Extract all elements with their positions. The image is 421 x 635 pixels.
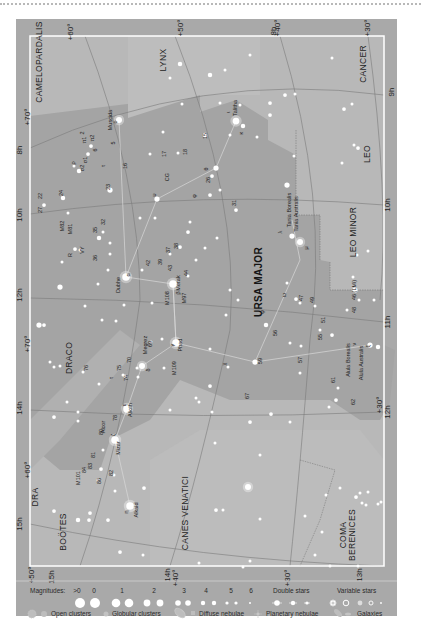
star xyxy=(198,401,201,404)
star xyxy=(109,242,112,245)
star-label: 62 xyxy=(350,399,356,405)
star xyxy=(325,494,328,497)
star-label: 83 xyxy=(87,463,93,469)
star-label: 49 xyxy=(309,297,315,303)
star-label: Alioth xyxy=(127,403,133,417)
star xyxy=(97,236,102,241)
star xyxy=(225,314,228,317)
star xyxy=(42,323,46,327)
constellation-label: LEO xyxy=(362,145,372,163)
star-label: κ xyxy=(238,131,244,134)
star xyxy=(245,484,251,490)
star xyxy=(97,283,100,286)
star xyxy=(334,398,338,402)
magnitude-dot xyxy=(175,600,181,606)
star-label: 46 (LMi) xyxy=(351,280,357,300)
star-label: σ1 xyxy=(82,157,88,163)
star xyxy=(314,554,317,557)
star-label: ν xyxy=(351,342,357,345)
coordinate-label: 12h xyxy=(16,288,24,301)
star xyxy=(341,162,344,165)
star-label: Alula Australis xyxy=(358,345,364,380)
star xyxy=(283,93,287,97)
star xyxy=(204,247,207,250)
star-label: Tania Borealis xyxy=(286,192,292,227)
star xyxy=(319,329,322,332)
star xyxy=(142,554,145,557)
star xyxy=(42,203,46,207)
magnitude-dot xyxy=(125,599,134,608)
star xyxy=(161,338,164,341)
star-label: 16 xyxy=(122,163,128,169)
star xyxy=(314,305,317,308)
star xyxy=(198,562,201,565)
star-label: 6 xyxy=(92,148,98,151)
star xyxy=(357,565,360,568)
star-label: 78 xyxy=(112,415,118,421)
star-label: 31 xyxy=(231,200,237,206)
star xyxy=(195,259,198,262)
coordinate-label: 13h xyxy=(355,568,364,581)
coordinate-label: 15h xyxy=(47,570,56,583)
star-label: 42 xyxy=(145,260,151,266)
legend-planetary-nebulae-label: Planetary nebulae xyxy=(266,610,319,618)
star xyxy=(259,518,262,521)
star xyxy=(208,384,212,388)
star xyxy=(142,486,146,490)
star xyxy=(151,302,154,305)
star xyxy=(224,69,227,72)
star xyxy=(331,57,334,60)
star xyxy=(67,212,70,215)
constellation-label: CANCER xyxy=(358,45,368,83)
constellation-label: URSA MAJOR xyxy=(253,247,264,317)
star xyxy=(356,146,360,150)
star xyxy=(154,217,157,220)
legend-diffuse-nebulae-label: Diffuse nebulae xyxy=(199,610,244,617)
star xyxy=(259,454,262,457)
star xyxy=(269,412,273,416)
star xyxy=(377,503,380,506)
star xyxy=(346,309,349,312)
star-label: υ xyxy=(151,193,157,196)
star-label: 56 xyxy=(272,330,278,336)
magnitude-value: 6 xyxy=(249,587,253,594)
star xyxy=(163,367,166,370)
star xyxy=(342,107,346,111)
star-label: 44 xyxy=(183,270,189,276)
star-label: Merak xyxy=(175,275,181,291)
star xyxy=(376,345,381,350)
star xyxy=(114,490,117,493)
legend-double-stars-label: Double stars xyxy=(273,587,310,594)
magnitude-dot xyxy=(249,602,251,604)
coordinate-label: 10h xyxy=(16,208,24,221)
star xyxy=(84,305,87,308)
magnitude-value: 5 xyxy=(229,587,233,594)
star-label: χ xyxy=(221,362,227,365)
constellation-label: BOÖTES xyxy=(58,513,68,550)
star-label: Alkaid xyxy=(133,503,139,518)
star-label: ρ xyxy=(70,161,76,164)
star-label: 86 xyxy=(96,478,102,484)
star-label: 59 xyxy=(257,358,263,364)
legend-globular-clusters-label: Globular clusters xyxy=(112,610,162,617)
constellation-label: BERENICES xyxy=(347,509,357,561)
star-label: 18 xyxy=(182,149,188,155)
star xyxy=(66,401,69,404)
star xyxy=(358,299,361,302)
star-label: 2 xyxy=(79,131,85,134)
star-label: 23 xyxy=(105,184,111,190)
star-label: Dubhe xyxy=(115,277,121,293)
star xyxy=(49,361,52,364)
coordinate-label: 8h xyxy=(16,146,24,155)
star-label: 57 xyxy=(297,357,303,363)
star-label: 38 xyxy=(173,243,179,249)
star xyxy=(86,152,90,156)
star-chart-svg: Muscidaοπ12π265σ1ρσ2τ1623171815Talithaικ… xyxy=(16,19,397,619)
star xyxy=(249,560,252,563)
star-label: 36 xyxy=(92,255,98,261)
star xyxy=(61,261,64,264)
star-label: 17 xyxy=(161,151,167,157)
star xyxy=(136,367,139,370)
coordinate-label: +60° xyxy=(66,24,75,41)
star xyxy=(299,372,302,375)
